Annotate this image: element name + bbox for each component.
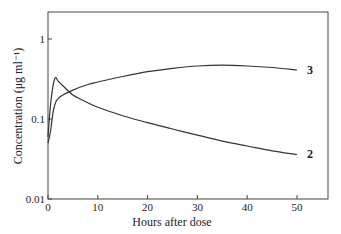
y-tick-label: 0.01 xyxy=(26,193,45,205)
series-lines: 23 xyxy=(48,63,313,162)
x-tick-label: 20 xyxy=(142,201,154,213)
x-axis: 01020304050 xyxy=(45,195,303,213)
series-2-label: 2 xyxy=(307,147,313,161)
series-3-label: 3 xyxy=(307,63,313,77)
y-axis-title: Concentration (μg ml⁻¹) xyxy=(11,48,25,165)
x-tick-label: 30 xyxy=(192,201,204,213)
series-2-line xyxy=(48,77,297,154)
y-tick-label: 0.1 xyxy=(31,113,45,125)
plot-frame xyxy=(48,12,328,199)
x-axis-title: Hours after dose xyxy=(132,215,211,229)
y-tick-label: 1 xyxy=(40,33,46,45)
x-tick-label: 40 xyxy=(242,201,254,213)
x-tick-label: 50 xyxy=(292,201,304,213)
x-tick-label: 10 xyxy=(92,201,104,213)
concentration-chart: 0.010.11 01020304050 23 Hours after dose… xyxy=(0,0,341,234)
series-3-line xyxy=(48,65,297,143)
x-tick-label: 0 xyxy=(45,201,51,213)
